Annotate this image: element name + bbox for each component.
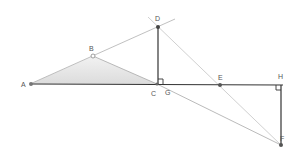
right-angle-marker-c [158, 79, 163, 84]
point-a [29, 82, 33, 86]
point-c [155, 82, 158, 85]
label-e: E [218, 74, 223, 81]
geometry-diagram: A B C D E F G H [0, 0, 300, 153]
label-a: A [21, 81, 26, 88]
label-f: F [280, 135, 284, 142]
label-g: G [165, 89, 170, 96]
point-e [218, 83, 222, 87]
segment-c-f [157, 84, 281, 145]
line-d-f-extended [148, 17, 281, 145]
shaded-triangle-abc [30, 56, 157, 84]
label-h: H [278, 73, 283, 80]
point-d [156, 25, 160, 29]
label-b: B [89, 45, 94, 52]
right-angle-marker-h [276, 85, 281, 90]
label-d: D [155, 15, 160, 22]
label-c: C [151, 90, 156, 97]
point-b [91, 54, 95, 58]
point-f [279, 143, 283, 147]
